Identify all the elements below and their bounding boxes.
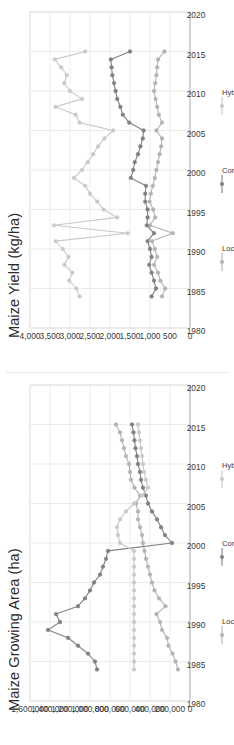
data-point <box>111 73 115 77</box>
data-point <box>54 612 58 616</box>
data-point <box>128 470 132 474</box>
data-point <box>134 446 138 450</box>
data-point <box>83 184 87 188</box>
data-point <box>119 105 123 109</box>
data-point <box>140 494 144 498</box>
data-point <box>153 215 157 219</box>
data-point <box>153 589 157 593</box>
data-point <box>156 160 160 164</box>
data-point <box>146 208 150 212</box>
x-tick-label: 2000 <box>187 541 206 551</box>
data-point <box>109 58 113 62</box>
data-point <box>144 184 148 188</box>
x-tick-label: 2010 <box>187 462 206 472</box>
data-point <box>95 200 99 204</box>
data-point <box>146 215 150 219</box>
legend-marker-hybrid <box>220 104 224 108</box>
data-point <box>63 263 67 267</box>
legend-marker-local <box>220 633 224 637</box>
x-axis-tick-labels: 198019851990199520002005201020152020 <box>187 383 206 709</box>
y-tick-label: 2,500 <box>80 331 101 341</box>
data-point <box>88 589 92 593</box>
data-point <box>136 510 140 514</box>
data-point <box>131 168 135 172</box>
legend-marker-composite <box>220 182 224 186</box>
data-point <box>137 431 141 435</box>
data-point <box>155 168 159 172</box>
data-point <box>146 565 150 569</box>
legend-marker-hybrid <box>220 477 224 481</box>
data-point <box>150 295 154 299</box>
x-tick-label: 1995 <box>187 581 206 591</box>
y-tick-label: 3,500 <box>40 331 61 341</box>
data-point <box>67 279 71 283</box>
data-point <box>80 168 84 172</box>
data-point <box>103 136 107 140</box>
data-point <box>136 517 140 521</box>
data-point <box>115 525 119 529</box>
data-point <box>80 97 84 101</box>
y-tick-label: 2,000 <box>100 331 121 341</box>
data-point <box>120 438 124 442</box>
data-point <box>152 89 156 93</box>
data-point <box>132 549 136 553</box>
data-point <box>63 81 67 85</box>
data-point <box>157 596 161 600</box>
data-point <box>54 239 58 243</box>
data-point <box>132 581 136 585</box>
data-point <box>155 129 159 133</box>
data-point <box>157 113 161 117</box>
rotated-wrapper-yield: Maize Yield (kg/ha) 05001,0001,5002,0002… <box>0 0 234 372</box>
data-point <box>132 644 136 648</box>
chart-panel-maize-yield: Maize Yield (kg/ha) 05001,0001,5002,0002… <box>0 0 234 372</box>
data-point <box>155 105 159 109</box>
data-point <box>152 231 156 235</box>
data-point <box>136 423 140 427</box>
data-point <box>115 215 119 219</box>
data-point <box>165 636 169 640</box>
x-tick-label: 2020 <box>187 10 206 20</box>
data-point <box>151 208 155 212</box>
legend-label-local: Local <box>222 617 234 626</box>
y-tick-label: 4,000 <box>20 331 41 341</box>
data-point <box>68 89 72 93</box>
data-point <box>114 423 118 427</box>
data-point <box>124 454 128 458</box>
data-point <box>83 50 87 54</box>
data-point <box>116 533 120 537</box>
data-point <box>144 494 148 498</box>
data-point <box>164 604 168 608</box>
data-point <box>130 423 134 427</box>
data-point <box>129 478 133 482</box>
x-tick-label: 2005 <box>187 129 206 139</box>
data-point <box>91 152 95 156</box>
data-point <box>155 65 159 69</box>
data-point <box>153 81 157 85</box>
data-point <box>133 486 137 490</box>
legend-marker-local <box>220 260 224 264</box>
data-point <box>155 517 159 521</box>
data-point <box>163 287 167 291</box>
data-point <box>144 478 148 482</box>
data-point <box>136 152 140 156</box>
data-point <box>110 65 114 69</box>
data-point <box>138 438 142 442</box>
data-point <box>160 136 164 140</box>
data-point <box>78 121 82 125</box>
data-point <box>132 573 136 577</box>
data-point <box>104 557 108 561</box>
data-point <box>142 129 146 133</box>
data-point <box>155 612 159 616</box>
data-point <box>124 510 128 514</box>
data-point <box>140 533 144 537</box>
data-point <box>156 58 160 62</box>
data-point <box>66 636 70 640</box>
x-tick-label: 1980 <box>187 699 206 709</box>
y-tick-label: 1,600,000 <box>11 704 49 714</box>
data-point <box>106 549 110 553</box>
data-point <box>98 573 102 577</box>
data-point <box>128 50 132 54</box>
data-point <box>152 279 156 283</box>
data-point <box>59 65 63 69</box>
data-point <box>171 652 175 656</box>
